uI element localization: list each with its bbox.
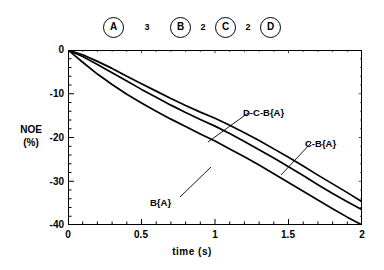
spin-node-b: B (170, 17, 191, 38)
x-axis-title: time (s) (0, 246, 384, 257)
spin-node-a-label: A (110, 22, 117, 32)
x-tick-1: 1 (200, 230, 230, 240)
y-tick-30: -30 (50, 177, 64, 187)
spin-node-b-label: B (177, 22, 184, 32)
spin-node-c-label: C (222, 22, 229, 32)
curve-label-ba: B{A} (150, 198, 171, 208)
x-tick-0-5: 0.5 (126, 230, 156, 240)
spin-distance-ab: 3 (124, 23, 170, 32)
x-tick-1-5: 1.5 (273, 230, 303, 240)
y-axis-title-line1: NOE (8, 124, 54, 137)
curve-label-cba: C-B{A} (305, 139, 336, 149)
x-tick-2: 2 (347, 230, 377, 240)
spin-node-d: D (260, 17, 281, 38)
curve-label-dcba: D-C-B{A} (243, 108, 284, 118)
y-axis-title: NOE (%) (8, 124, 54, 149)
spin-node-d-label: D (267, 22, 274, 32)
x-tick-0: 0 (53, 230, 83, 240)
y-tick-10: -10 (50, 89, 64, 99)
spin-distance-bc: 2 (191, 23, 215, 32)
spin-distance-cd: 2 (236, 23, 260, 32)
y-tick-40: -40 (50, 220, 64, 230)
y-axis-title-line2: (%) (8, 137, 54, 150)
y-tick-0: 0 (58, 45, 64, 55)
spin-node-c: C (215, 17, 236, 38)
spin-node-a: A (103, 17, 124, 38)
